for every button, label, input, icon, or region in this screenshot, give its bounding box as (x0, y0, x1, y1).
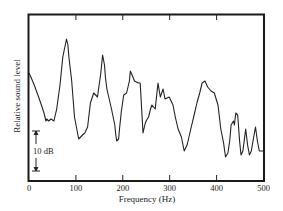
x-tick-label: 500 (257, 183, 270, 193)
x-tick-label: 200 (116, 183, 129, 193)
plot-frame (29, 15, 265, 182)
axis-ticks (76, 15, 217, 180)
x-tick-label: 100 (70, 183, 83, 193)
scale-bar-label: 10 dB (33, 146, 54, 156)
spectrum-line (29, 39, 264, 157)
x-tick-label: 0 (27, 183, 31, 193)
x-tick-label: 400 (210, 183, 223, 193)
x-axis-title: Frequency (Hz) (119, 194, 176, 204)
x-tick-label: 300 (163, 183, 176, 193)
sound-spectrum-chart: 10 dB 0100200300400500 Frequency (Hz) Re… (0, 0, 283, 211)
y-axis-title: Relative sound level (12, 59, 22, 133)
x-tick-labels: 0100200300400500 (27, 183, 270, 193)
